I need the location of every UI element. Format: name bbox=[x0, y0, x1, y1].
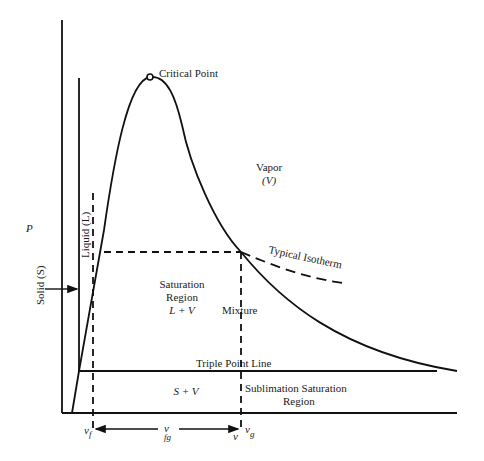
critical-point-label: Critical Point bbox=[159, 67, 218, 79]
saturation-region-label-3: L + V bbox=[168, 304, 196, 316]
mixture-label: Mixture bbox=[222, 304, 258, 316]
triple-point-line-label: Triple Point Line bbox=[196, 357, 271, 369]
pv-phase-diagram: P Critical Point Vapor (V) Liquid (L) So… bbox=[0, 0, 484, 461]
sublimation-region-label-1: Sublimation Saturation bbox=[245, 382, 347, 394]
solid-label: Solid (S) bbox=[34, 265, 47, 305]
vapor-label: Vapor bbox=[256, 161, 283, 173]
vg-label: vg bbox=[245, 423, 255, 439]
solid-vapor-label: S + V bbox=[173, 385, 199, 397]
critical-point-marker bbox=[147, 74, 153, 80]
vfg-label: vfg bbox=[164, 422, 172, 442]
vapor-symbol: (V) bbox=[262, 174, 276, 187]
saturation-dome bbox=[79, 77, 457, 371]
solid-vapor-boundary bbox=[72, 371, 79, 413]
saturation-region-label-1: Saturation bbox=[159, 278, 205, 290]
v-label: v bbox=[233, 430, 238, 442]
sublimation-region-label-2: Region bbox=[283, 395, 315, 407]
pressure-axis-label: P bbox=[25, 222, 33, 234]
liquid-label: Liquid (L) bbox=[79, 212, 92, 258]
vf-label: vf bbox=[84, 424, 93, 439]
saturation-region-label-2: Region bbox=[166, 291, 198, 303]
